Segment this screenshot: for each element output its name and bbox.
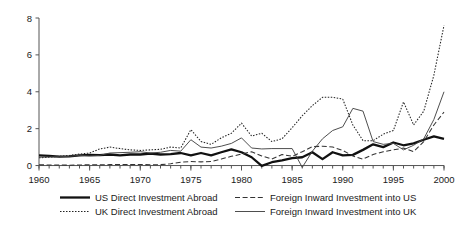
line-chart: 02468 1960196519701975198019851990199520… bbox=[0, 0, 457, 225]
x-tick-label: 1975 bbox=[180, 174, 201, 185]
legend-label-3: Foreign Inward Investment into UK bbox=[270, 206, 417, 217]
series-line-0 bbox=[39, 136, 444, 166]
y-tick-label: 2 bbox=[27, 123, 32, 134]
x-axis: 196019651970197519801985199019952000 bbox=[28, 166, 454, 185]
y-tick-label: 4 bbox=[27, 86, 32, 97]
y-tick-label: 0 bbox=[27, 160, 32, 171]
y-tick-label: 8 bbox=[27, 13, 32, 24]
x-tick-label: 1995 bbox=[383, 174, 404, 185]
x-tick-label: 1990 bbox=[332, 174, 353, 185]
x-tick-label: 1980 bbox=[231, 174, 252, 185]
y-tick-label: 6 bbox=[27, 49, 32, 60]
legend-label-0: US Direct Investment Abroad bbox=[95, 192, 218, 203]
x-axis-tick-labels: 196019651970197519801985199019952000 bbox=[28, 174, 454, 185]
x-tick-label: 1970 bbox=[130, 174, 151, 185]
x-tick-label: 1960 bbox=[28, 174, 49, 185]
series-line-1 bbox=[39, 112, 444, 165]
x-tick-label: 1965 bbox=[79, 174, 100, 185]
chart-legend: US Direct Investment AbroadForeign Inwar… bbox=[60, 192, 417, 217]
legend-label-2: UK Direct Investment Abroad bbox=[95, 206, 218, 217]
chart-canvas: 02468 1960196519701975198019851990199520… bbox=[0, 0, 457, 225]
x-tick-label: 1985 bbox=[282, 174, 303, 185]
data-series-group bbox=[39, 25, 444, 167]
y-axis: 02468 bbox=[27, 13, 39, 172]
y-axis-ticks bbox=[36, 18, 40, 166]
x-tick-label: 2000 bbox=[433, 174, 454, 185]
y-axis-tick-labels: 02468 bbox=[27, 13, 32, 172]
legend-label-1: Foreign Inward Investment into US bbox=[270, 192, 416, 203]
